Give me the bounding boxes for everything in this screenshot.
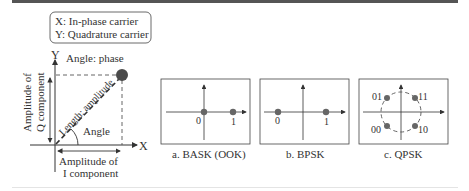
point-0 xyxy=(201,109,207,115)
angle-label: Angle xyxy=(83,125,110,137)
caption-qpsk: c. QPSK xyxy=(384,148,423,160)
point-1 xyxy=(323,109,329,115)
point-label: 0 xyxy=(196,115,201,126)
point-01 xyxy=(384,95,390,101)
caption-bpsk: b. BPSK xyxy=(286,148,325,160)
point-label: 00 xyxy=(371,124,381,135)
signal-point xyxy=(116,69,128,81)
x-axis-label: X xyxy=(139,139,148,153)
point-label: 01 xyxy=(372,91,382,102)
angle-phase-label: Angle: phase xyxy=(66,52,124,64)
caption-bask: a. BASK (OOK) xyxy=(172,148,246,161)
point-label: 11 xyxy=(418,91,428,102)
panel-bask: 0 1 a. BASK (OOK) xyxy=(161,79,250,161)
legend-line-2: Y: Quadrature carrier xyxy=(55,28,149,40)
legend-box: X: In-phase carrier Y: Quadrature carrie… xyxy=(50,12,151,43)
point-00 xyxy=(384,123,390,129)
i-amplitude-label-1: Amplitude of xyxy=(59,155,118,167)
q-amplitude-label-2: Q component xyxy=(34,72,46,132)
y-axis-label: Y xyxy=(51,48,60,62)
point-1 xyxy=(230,109,236,115)
i-amplitude-label-2: I component xyxy=(63,167,118,179)
legend-line-1: X: In-phase carrier xyxy=(55,15,138,27)
panel-qpsk: 01 11 00 10 c. QPSK xyxy=(359,79,448,160)
panel-bpsk: 0 1 b. BPSK xyxy=(260,79,349,160)
iq-diagram: Y X Angle: phase Length: amplitude Angle… xyxy=(21,48,148,179)
constellation-figure: X: In-phase carrier Y: Quadrature carrie… xyxy=(0,0,469,191)
angle-arc xyxy=(71,129,78,145)
point-label: 10 xyxy=(418,124,428,135)
point-label: 1 xyxy=(231,116,236,127)
q-amplitude-label-1: Amplitude of xyxy=(21,73,33,132)
point-label: 0 xyxy=(275,115,280,126)
point-label: 1 xyxy=(324,116,329,127)
